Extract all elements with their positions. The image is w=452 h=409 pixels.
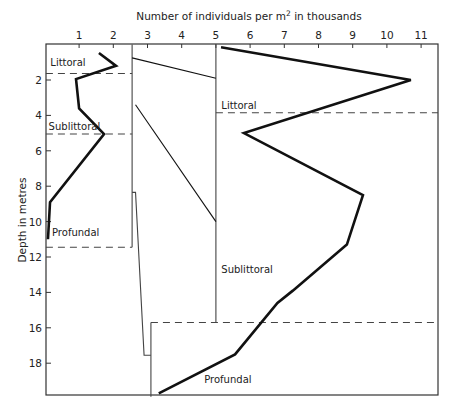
y-tick-label: 10 — [29, 216, 42, 228]
zone-label: Littoral — [221, 100, 256, 111]
zone-label: Profundal — [52, 227, 99, 238]
series-line — [132, 58, 216, 78]
y-tick-label: 4 — [35, 109, 42, 121]
x-tick-label: 2 — [110, 29, 117, 41]
x-axis-title: Number of individuals per m2 in thousand… — [136, 9, 361, 22]
x-tick-label: 7 — [281, 29, 288, 41]
x-axis-title-main: Number of individuals per m — [136, 10, 286, 22]
series-line — [48, 53, 116, 239]
x-tick-label: 11 — [414, 29, 427, 41]
zone-label: Sublittoral — [221, 264, 273, 275]
series-line — [136, 105, 216, 222]
x-tick-label: 9 — [349, 29, 356, 41]
x-axis-title-tail: in thousands — [291, 10, 362, 22]
depth-distribution-chart: Number of individuals per m2 in thousand… — [0, 0, 452, 409]
middle-step — [132, 192, 151, 355]
x-tick-label: 8 — [315, 29, 322, 41]
zone-labels: LittoralSublittoralProfundalLittoralSubl… — [49, 57, 273, 385]
y-tick-label: 2 — [35, 74, 42, 86]
x-tick-label: 4 — [178, 29, 185, 41]
x-tick-label: 5 — [213, 29, 220, 41]
y-tick-label: 6 — [35, 145, 42, 157]
x-tick-label: 6 — [247, 29, 254, 41]
zone-label: Littoral — [50, 57, 85, 68]
x-ticks: 1234567891011 — [76, 29, 428, 48]
y-tick-label: 14 — [29, 286, 43, 298]
x-tick-label: 3 — [144, 29, 151, 41]
zone-label: Profundal — [204, 374, 251, 385]
y-ticks: 24681012141618 — [29, 74, 51, 369]
y-tick-label: 8 — [35, 180, 42, 192]
y-tick-label: 18 — [29, 357, 42, 369]
y-tick-label: 12 — [29, 251, 42, 263]
x-tick-label: 10 — [380, 29, 393, 41]
plot-frame — [46, 44, 438, 395]
zone-boundaries — [46, 73, 438, 322]
series-line — [159, 47, 411, 393]
panel-lines — [132, 45, 216, 397]
zone-label: Sublittoral — [49, 121, 101, 132]
y-axis-title: Depth in metres — [16, 177, 28, 262]
y-tick-label: 16 — [29, 322, 43, 334]
x-tick-label: 1 — [76, 29, 83, 41]
